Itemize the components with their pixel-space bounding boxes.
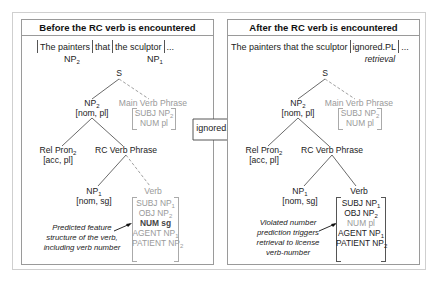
annotation-note: Violated number prediction triggers retr…: [257, 218, 320, 258]
main-verb-feature-box: SUBJ NP2 NUM pl: [132, 108, 176, 130]
node-rel-pron-features: [acc, pl]: [249, 156, 279, 165]
feature-num: NUM pl: [132, 119, 176, 128]
feature-agent: AGENT NP1: [132, 229, 179, 238]
node-verb: Verb: [350, 187, 368, 196]
node-np2-features: [nom, pl]: [282, 109, 315, 118]
node-main-verb-phrase: Main Verb Phrase: [325, 99, 393, 108]
feature-obj: OBJ NP2: [336, 209, 386, 218]
feature-patient: PATIENT NP2: [336, 239, 386, 248]
feature-num: NUM sg: [132, 219, 179, 228]
feature-subj: SUBJ NP1: [132, 199, 179, 208]
node-np2: NP2: [84, 99, 99, 108]
node-rc-verb-phrase: RC Verb Phrase: [301, 146, 363, 155]
node-np1: NP1: [86, 187, 101, 196]
feature-subj: SUBJ NP2: [132, 109, 176, 118]
feature-obj: OBJ NP2: [132, 209, 179, 218]
node-np1-features: [nom, sg]: [282, 197, 317, 206]
feature-patient: PATIENT NP2: [132, 239, 179, 248]
node-rel-pron: Rel Pron2: [246, 146, 283, 155]
verb-feature-box: SUBJ NP1 OBJ NP2 NUM pl AGENT NP1 PATIEN…: [336, 197, 386, 262]
node-rel-pron-features: [acc, pl]: [43, 156, 73, 165]
node-rel-pron: Rel Pron2: [40, 146, 77, 155]
node-main-verb-phrase: Main Verb Phrase: [119, 99, 187, 108]
node-rc-verb-phrase: RC Verb Phrase: [95, 146, 157, 155]
node-np2: NP2: [290, 99, 305, 108]
feature-subj: SUBJ NP2: [338, 109, 382, 118]
node-verb: Verb: [144, 187, 162, 196]
node-np1: NP1: [292, 187, 307, 196]
feature-agent: AGENT NP1: [336, 229, 386, 238]
node-np1-features: [nom, sg]: [76, 197, 111, 206]
annotation-note: Predicted feature structure of the verb,…: [44, 223, 121, 253]
verb-feature-box: SUBJ NP1 OBJ NP2 NUM sg AGENT NP1 PATIEN…: [132, 197, 179, 262]
main-verb-feature-box: SUBJ NP2 NUM pl: [338, 108, 382, 130]
panel-after: After the RC verb is encountered The pai…: [227, 19, 420, 265]
feature-num: NUM pl: [338, 119, 382, 128]
feature-num: NUM pl: [336, 219, 386, 228]
feature-subj: SUBJ NP1: [336, 199, 386, 208]
node-s: S: [116, 69, 122, 78]
node-np2-features: [nom, pl]: [76, 109, 109, 118]
panel-before: Before the RC verb is encountered The pa…: [21, 19, 214, 265]
node-s: S: [322, 69, 328, 78]
